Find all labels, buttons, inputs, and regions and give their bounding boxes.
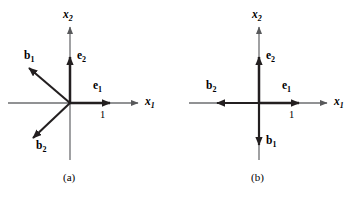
panel-a-e1-sub: 1 [98, 85, 102, 94]
panel-a-x1-sub: 1 [151, 101, 155, 110]
panel-b-tick-one: 1 [289, 110, 294, 121]
panel-b-b1-sub: 1 [272, 140, 276, 149]
panel-a-label-e2: e2 [77, 50, 86, 62]
panel-b-x1-sub: 1 [340, 101, 344, 110]
panel-b-label-b2: b2 [206, 80, 216, 92]
panel-a-label-b1: b1 [24, 50, 34, 62]
panel-a-caption: (a) [63, 172, 75, 183]
panel-a-e2-sub: 2 [82, 55, 86, 64]
panel-a-label-x2: x2 [63, 9, 73, 21]
panel-b-label-x1: x1 [334, 96, 344, 108]
panel-a-x1-main: x [145, 95, 151, 107]
figure-basis-vectors: x2 x1 e1 e2 b1 b2 1 (a) x2 x1 e1 e2 b1 b… [0, 0, 352, 198]
diagram-canvas [0, 0, 352, 198]
panel-b-e1-sub: 1 [287, 85, 291, 94]
panel-b-e2-sub: 2 [271, 55, 275, 64]
panel-a-tick-one: 1 [100, 110, 105, 121]
panel-a-x2-sub: 2 [69, 14, 73, 23]
panel-a-vector-b2 [33, 103, 70, 138]
panel-b [189, 27, 327, 160]
panel-b-label-x2: x2 [252, 9, 262, 21]
panel-b-label-e2: e2 [266, 50, 275, 62]
panel-a-label-b2: b2 [36, 140, 46, 152]
panel-b-x1-main: x [334, 95, 340, 107]
panel-a-label-x1: x1 [145, 96, 155, 108]
panel-b-x2-sub: 2 [258, 14, 262, 23]
panel-a-label-e1: e1 [93, 80, 102, 92]
panel-b-label-e1: e1 [282, 80, 291, 92]
panel-b-caption: (b) [251, 172, 264, 183]
panel-a-vector-b1 [29, 68, 70, 103]
panel-a [8, 27, 138, 160]
panel-a-b2-sub: 2 [42, 145, 46, 154]
panel-b-x2-main: x [252, 8, 258, 20]
panel-a-x2-main: x [63, 8, 69, 20]
panel-b-label-b1: b1 [266, 135, 276, 147]
panel-a-b1-sub: 1 [30, 55, 34, 64]
panel-b-b2-sub: 2 [212, 85, 216, 94]
